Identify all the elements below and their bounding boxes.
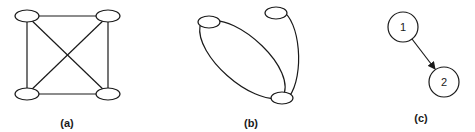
node-b1 bbox=[198, 16, 220, 28]
node-2-label: 2 bbox=[441, 76, 447, 88]
node-a1 bbox=[15, 10, 39, 22]
node-a3 bbox=[15, 88, 39, 100]
node-b2 bbox=[265, 7, 287, 19]
node-b3 bbox=[271, 92, 293, 104]
panel-b: (b) bbox=[198, 7, 299, 129]
node-a4 bbox=[96, 88, 120, 100]
panel-c: 1 2 (c) bbox=[388, 12, 459, 124]
node-a2 bbox=[96, 10, 120, 22]
caption-b: (b) bbox=[244, 117, 258, 129]
caption-c: (c) bbox=[414, 112, 428, 124]
panel-a: (a) bbox=[15, 10, 120, 129]
edge-b1-b3-lower bbox=[200, 26, 282, 99]
caption-a: (a) bbox=[60, 117, 74, 129]
graph-figure: (a) (b) 1 2 (c) bbox=[0, 0, 475, 132]
node-1-label: 1 bbox=[400, 21, 406, 33]
edge-b1-b3-upper bbox=[209, 21, 285, 98]
edge-c1-c2-arrow bbox=[412, 39, 435, 69]
